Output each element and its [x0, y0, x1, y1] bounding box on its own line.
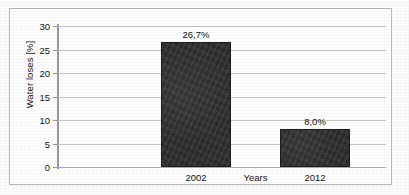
plot-area: 051015202530 26,7%8,0% 20022012 Years [58, 26, 386, 167]
bar-value-label: 26,7% [183, 29, 210, 40]
chart-frame: Water loses [%] 051015202530 26,7%8,0% 2… [9, 8, 392, 185]
bar-value-label: 8,0% [304, 116, 326, 127]
y-axis-title: Water loses [%] [24, 20, 35, 130]
y-tick-mark-25 [53, 50, 58, 51]
x-category-label-2012: 2012 [304, 172, 325, 183]
gridline-0 [58, 167, 386, 168]
y-tick-mark-15 [53, 97, 58, 98]
y-tick-label: 15 [39, 91, 50, 102]
y-tick-label: 10 [39, 115, 50, 126]
bar-2012[interactable]: 8,0% [280, 129, 350, 167]
y-tick-label: 25 [39, 44, 50, 55]
x-category-label-2002: 2002 [185, 172, 206, 183]
y-tick-mark-5 [53, 144, 58, 145]
y-tick-label: 0 [45, 162, 50, 173]
y-tick-label: 20 [39, 68, 50, 79]
y-tick-mark-10 [53, 120, 58, 121]
y-tick-mark-20 [53, 73, 58, 74]
y-tick-mark-0 [53, 167, 58, 168]
x-axis-title: Years [244, 172, 268, 183]
bar-2002[interactable]: 26,7% [161, 42, 231, 167]
y-tick-label: 30 [39, 21, 50, 32]
figure-root: Water loses [%] 051015202530 26,7%8,0% 2… [0, 0, 409, 195]
y-tick-label: 5 [45, 138, 50, 149]
y-tick-mark-30 [53, 26, 58, 27]
gridline-30 [58, 26, 386, 27]
